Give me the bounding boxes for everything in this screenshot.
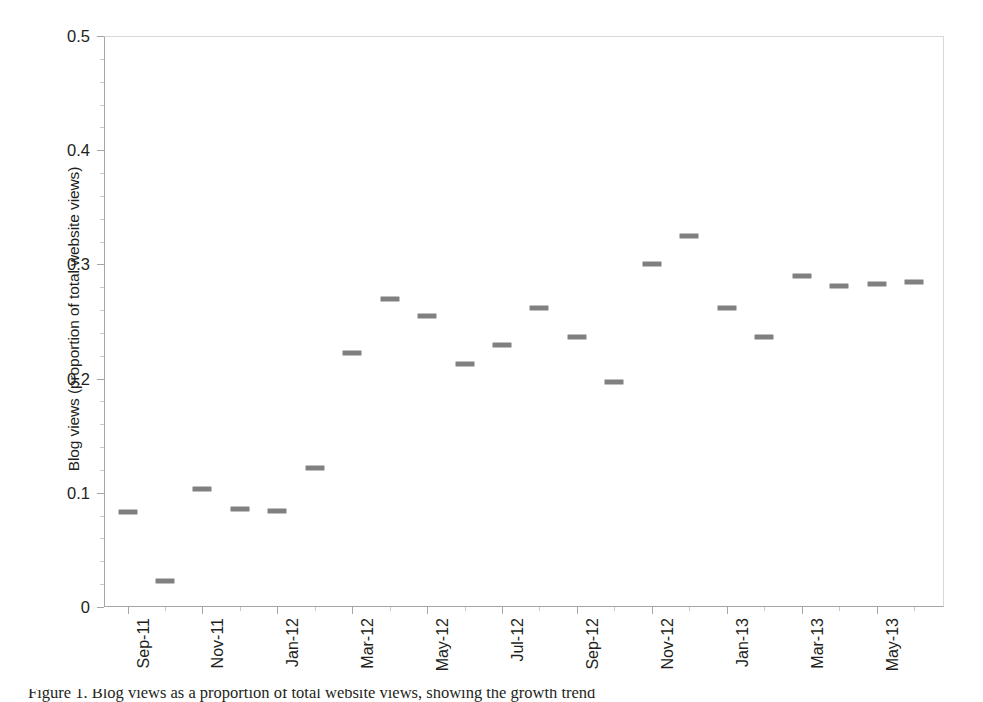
y-axis-minor-tick — [100, 538, 105, 539]
y-axis-minor-tick — [100, 219, 105, 220]
y-axis-minor-tick — [100, 356, 105, 357]
data-point-marker — [680, 233, 699, 238]
data-point-marker — [193, 487, 212, 492]
y-axis-minor-tick — [100, 561, 105, 562]
data-point-marker — [867, 281, 886, 286]
x-axis-major-tick — [577, 607, 578, 614]
data-point-marker — [830, 284, 849, 289]
y-axis-minor-tick — [100, 470, 105, 471]
data-point-marker — [642, 262, 661, 267]
x-axis-minor-tick — [465, 607, 466, 611]
x-axis-major-tick — [802, 607, 803, 614]
x-axis-minor-tick — [614, 607, 615, 611]
x-axis-major-tick — [502, 607, 503, 614]
x-axis-major-tick — [652, 607, 653, 614]
data-point-marker — [118, 510, 137, 515]
y-axis-tick-label: 0.4 — [67, 141, 90, 160]
y-axis-tick-label: 0.3 — [67, 255, 90, 274]
y-axis-minor-tick — [100, 516, 105, 517]
x-axis-major-tick — [352, 607, 353, 614]
data-point-marker — [155, 578, 174, 583]
y-axis-major-tick — [97, 493, 104, 494]
y-axis-minor-tick — [100, 173, 105, 174]
data-point-marker — [717, 305, 736, 310]
y-axis-minor-tick — [100, 310, 105, 311]
y-axis-minor-tick — [100, 242, 105, 243]
data-point-marker — [305, 465, 324, 470]
data-point-marker — [455, 361, 474, 366]
data-point-marker — [567, 335, 586, 340]
y-axis-minor-tick — [100, 447, 105, 448]
data-point-marker — [792, 273, 811, 278]
figure-caption: Figure 1. Blog views as a proportion of … — [0, 689, 983, 702]
y-axis-minor-tick — [100, 584, 105, 585]
chart-figure: Blog views (proportion of total website … — [0, 0, 983, 702]
x-axis-major-tick — [877, 607, 878, 614]
y-axis-minor-tick — [100, 82, 105, 83]
data-point-marker — [904, 279, 923, 284]
x-axis-major-tick — [277, 607, 278, 614]
x-axis-minor-tick — [390, 607, 391, 611]
data-point-marker — [755, 335, 774, 340]
y-axis-major-tick — [97, 607, 104, 608]
y-axis-major-tick — [97, 379, 104, 380]
y-axis-tick-labels: 00.10.20.30.40.5 — [0, 0, 104, 702]
y-axis-tick-label: 0.5 — [67, 27, 90, 46]
x-axis-minor-tick — [764, 607, 765, 611]
y-axis-tick-label: 0.1 — [67, 483, 90, 502]
data-point-marker — [605, 380, 624, 385]
x-axis-minor-tick — [689, 607, 690, 611]
y-axis-major-tick — [97, 150, 104, 151]
x-axis-minor-tick — [240, 607, 241, 611]
x-axis-major-tick — [427, 607, 428, 614]
y-axis-minor-tick — [100, 127, 105, 128]
y-axis-minor-tick — [100, 105, 105, 106]
y-axis-major-tick — [97, 264, 104, 265]
y-axis-major-tick — [97, 36, 104, 37]
y-axis-minor-tick — [100, 59, 105, 60]
data-point-marker — [418, 313, 437, 318]
x-axis-minor-tick — [839, 607, 840, 611]
x-axis-minor-tick — [914, 607, 915, 611]
x-axis-minor-tick — [539, 607, 540, 611]
y-axis-tick-label: 0.2 — [67, 369, 90, 388]
y-axis-minor-tick — [100, 196, 105, 197]
data-point-marker — [268, 509, 287, 514]
data-point-marker — [493, 343, 512, 348]
y-axis-minor-tick — [100, 424, 105, 425]
x-axis-minor-tick — [165, 607, 166, 611]
data-point-marker — [230, 506, 249, 511]
figure-caption-text: Figure 1. Blog views as a proportion of … — [28, 689, 958, 702]
y-axis-minor-tick — [100, 333, 105, 334]
data-point-marker — [380, 296, 399, 301]
plot-area — [104, 36, 944, 607]
x-axis-minor-tick — [315, 607, 316, 611]
data-point-marker — [343, 351, 362, 356]
y-axis-minor-tick — [100, 287, 105, 288]
x-axis-major-tick — [202, 607, 203, 614]
x-axis-major-tick — [128, 607, 129, 614]
y-axis-minor-tick — [100, 401, 105, 402]
y-axis-tick-label: 0 — [81, 598, 90, 617]
data-point-marker — [530, 305, 549, 310]
x-axis-major-tick — [727, 607, 728, 614]
